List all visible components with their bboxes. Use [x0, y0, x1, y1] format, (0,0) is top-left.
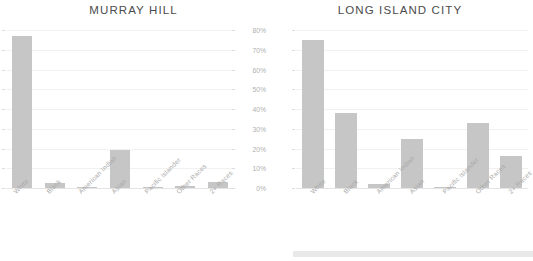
y-axis-tick-label: 70% [252, 46, 266, 53]
bar-slot [201, 30, 234, 188]
y-axis-tick-mark [2, 168, 5, 169]
bar-slot [296, 30, 329, 188]
y-axis-tick-mark [2, 149, 5, 150]
y-axis-tick-label: 0% [256, 185, 266, 192]
y-axis-tick-mark [292, 70, 295, 71]
y-axis-tick-mark [292, 89, 295, 90]
y-axis-long-island-city: 0%10%20%30%40%50%60%70%80% [236, 30, 266, 188]
y-axis-tick-label: 60% [252, 66, 266, 73]
bar-slot [136, 30, 169, 188]
bar-slot [329, 30, 362, 188]
x-axis-labels-murray-hill: WhiteBlackAmerican IndianAsianPacific Is… [0, 190, 267, 260]
y-axis-tick-label: 50% [252, 86, 266, 93]
y-axis-tick-mark [232, 70, 235, 71]
y-axis-tick-mark [2, 70, 5, 71]
y-axis-tick-mark [2, 30, 5, 31]
plot-area-long-island-city [296, 30, 528, 188]
bar-slot [429, 30, 462, 188]
y-axis-tick-mark [232, 109, 235, 110]
y-axis-tick-mark [292, 50, 295, 51]
y-axis-tick-mark [2, 188, 5, 189]
y-axis-tick-mark [232, 149, 235, 150]
y-axis-tick-label: 10% [252, 165, 266, 172]
y-axis-tick-mark [232, 50, 235, 51]
y-axis-tick-mark [2, 109, 5, 110]
chart-figure: MURRAY HILL WhiteBlackAmerican IndianAsi… [0, 0, 533, 261]
y-axis-tick-label: 40% [252, 106, 266, 113]
bottom-divider-band [293, 251, 533, 257]
y-axis-tick-mark [292, 30, 295, 31]
bar [302, 40, 324, 188]
chart-title-murray-hill: MURRAY HILL [0, 4, 267, 16]
bar-slot [39, 30, 72, 188]
x-axis-labels-long-island-city: WhiteBlackAmerican IndianAsianPacific Is… [296, 190, 528, 260]
y-axis-tick-mark [2, 129, 5, 130]
y-axis-tick-mark [232, 129, 235, 130]
y-axis-tick-mark [292, 168, 295, 169]
y-axis-tick-label: 80% [252, 27, 266, 34]
y-axis-tick-mark [232, 89, 235, 90]
bar [12, 36, 32, 188]
chart-title-long-island-city: LONG ISLAND CITY [267, 4, 533, 16]
y-axis-tick-label: 20% [252, 145, 266, 152]
y-axis-tick-mark [232, 30, 235, 31]
bar-slot [6, 30, 39, 188]
y-axis-tick-mark [2, 89, 5, 90]
y-axis-tick-mark [292, 129, 295, 130]
y-axis-tick-mark [292, 109, 295, 110]
bar-series-long-island-city [296, 30, 528, 188]
bar-slot [71, 30, 104, 188]
y-axis-tick-mark [232, 188, 235, 189]
y-axis-tick-mark [292, 149, 295, 150]
y-axis-tick-mark [2, 50, 5, 51]
y-axis-tick-mark [232, 168, 235, 169]
bar-slot [362, 30, 395, 188]
y-axis-tick-mark [292, 188, 295, 189]
y-axis-tick-label: 30% [252, 125, 266, 132]
chart-panel-murray-hill: MURRAY HILL WhiteBlackAmerican IndianAsi… [0, 0, 267, 261]
